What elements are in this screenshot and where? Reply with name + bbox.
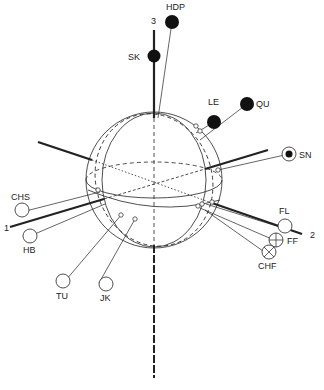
svg-text:HDP: HDP xyxy=(166,2,185,12)
axis-label-3: 3 xyxy=(151,16,156,26)
point-CHF: CHF xyxy=(258,245,277,271)
svg-text:FL: FL xyxy=(279,206,290,216)
point-HB: HB xyxy=(23,229,37,255)
axis-2-outer-left xyxy=(38,142,92,160)
point-FL: FL xyxy=(278,206,292,233)
sphere-diagram: HDP SK LE QU SN CHS HB TU JK FL FF xyxy=(0,0,324,390)
svg-text:CHF: CHF xyxy=(258,261,277,271)
point-HDP: HDP xyxy=(165,2,185,29)
svg-text:JK: JK xyxy=(100,293,111,303)
svg-text:TU: TU xyxy=(56,291,68,301)
point-QU: QU xyxy=(240,97,270,111)
point-FF: FF xyxy=(269,233,298,247)
point-SN: SN xyxy=(282,147,312,161)
point-LE: LE xyxy=(207,97,221,129)
axis-label-2: 2 xyxy=(310,230,315,240)
svg-text:LE: LE xyxy=(208,97,219,107)
svg-text:QU: QU xyxy=(256,99,270,109)
point-JK: JK xyxy=(99,277,113,303)
svg-text:SN: SN xyxy=(299,150,312,160)
point-TU: TU xyxy=(56,274,70,301)
svg-text:FF: FF xyxy=(287,236,298,246)
svg-text:HB: HB xyxy=(23,245,36,255)
point-SK: SK xyxy=(128,50,161,63)
svg-text:CHS: CHS xyxy=(11,192,30,202)
axis-label-1: 1 xyxy=(4,223,9,233)
point-CHS: CHS xyxy=(11,192,30,217)
svg-text:SK: SK xyxy=(128,52,140,62)
